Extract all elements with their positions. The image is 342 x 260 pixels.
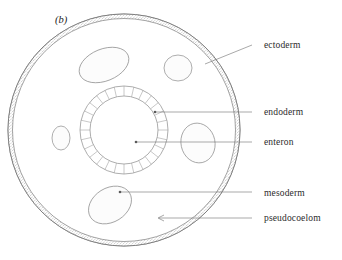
label-ectoderm: ectoderm bbox=[264, 40, 301, 50]
leader-mesoderm-point bbox=[119, 191, 122, 194]
figure-container: (b) ectoderm endoderm enteron mesoderm p… bbox=[0, 0, 342, 260]
label-mesoderm: mesoderm bbox=[264, 188, 305, 198]
mesoderm-blob bbox=[52, 126, 70, 150]
leader-enteron-point bbox=[135, 141, 138, 144]
label-pseudocoelom: pseudocoelom bbox=[264, 213, 321, 223]
panel-letter: (b) bbox=[55, 14, 68, 26]
label-endoderm: endoderm bbox=[264, 107, 304, 117]
leader-endoderm-point bbox=[154, 111, 157, 114]
label-enteron: enteron bbox=[264, 137, 294, 147]
pseudocoelomate-cross-section-diagram: (b) ectoderm endoderm enteron mesoderm p… bbox=[0, 0, 342, 260]
mesoderm-blob bbox=[164, 55, 192, 81]
